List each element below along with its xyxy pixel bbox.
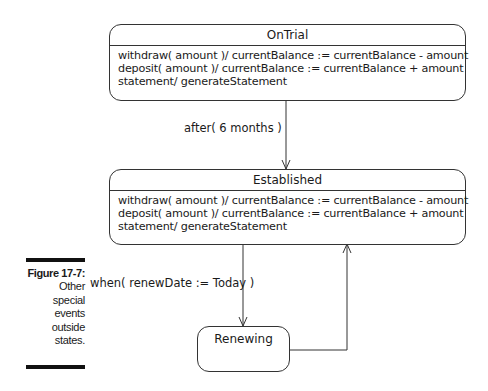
transition-label-when: when( renewDate := Today ): [90, 276, 254, 290]
action-statement: statement/ generateStatement: [118, 220, 457, 233]
transition-label-after: after( 6 months ): [184, 121, 282, 135]
action-withdraw: withdraw( amount )/ currentBalance := cu…: [118, 49, 457, 62]
state-actions: withdraw( amount )/ currentBalance := cu…: [110, 191, 465, 236]
state-name: Established: [110, 170, 465, 190]
transition-return-arrow: [289, 244, 347, 350]
caption-line: events: [26, 307, 85, 321]
state-established: Established withdraw( amount )/ currentB…: [109, 169, 466, 245]
caption-top-bar: [26, 258, 85, 262]
state-renewing: Renewing: [197, 326, 290, 372]
state-name: OnTrial: [110, 25, 465, 45]
caption-line: special: [26, 294, 85, 308]
caption-line: outside: [26, 321, 85, 335]
action-deposit: deposit( amount )/ currentBalance := cur…: [118, 207, 457, 220]
state-actions: withdraw( amount )/ currentBalance := cu…: [110, 46, 465, 91]
state-name: Renewing: [198, 327, 289, 351]
action-deposit: deposit( amount )/ currentBalance := cur…: [118, 62, 457, 75]
action-statement: statement/ generateStatement: [118, 75, 457, 88]
action-withdraw: withdraw( amount )/ currentBalance := cu…: [118, 194, 457, 207]
figure-number: Figure 17-7:: [26, 267, 85, 280]
caption-line: Other: [26, 280, 85, 294]
figure-caption: Figure 17-7: Other special events outsid…: [26, 267, 85, 348]
state-ontrial: OnTrial withdraw( amount )/ currentBalan…: [109, 24, 466, 101]
caption-bottom-bar: [26, 365, 85, 369]
caption-line: states.: [26, 334, 85, 348]
